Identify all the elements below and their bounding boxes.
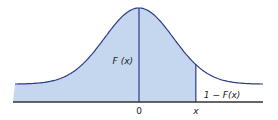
tail-label: 1 − F(x) <box>204 90 241 100</box>
shaded-area-F <box>13 8 196 102</box>
chart: 0 x F (x) 1 − F(x) <box>0 0 278 120</box>
shaded-label: F (x) <box>113 56 133 66</box>
tick-label-x: x <box>192 106 199 116</box>
tick-label-0: 0 <box>136 106 142 116</box>
